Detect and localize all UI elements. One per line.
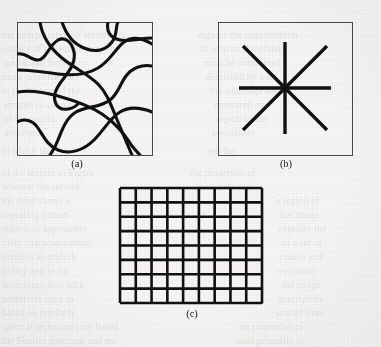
- bleed-text: and the: [206, 146, 235, 156]
- bleed-text: the third shows a: [2, 196, 70, 206]
- bleed-text: in which the: [2, 146, 51, 156]
- texture-curve: [17, 39, 78, 109]
- bleed-text: smooth or coarse: [4, 100, 72, 110]
- texture-figure: [0, 0, 381, 347]
- bleed-text: the image: [282, 280, 321, 290]
- bleed-text: grainy and so on: [2, 266, 68, 276]
- bleed-text: techniques deal with: [2, 280, 84, 290]
- bleed-text: of the region: [4, 114, 55, 124]
- bleed-text: measured over: [214, 100, 272, 110]
- starburst-spoke: [243, 46, 327, 130]
- bleed-text: of the texture in Figure: [2, 168, 94, 178]
- texture-curve: [108, 22, 153, 41]
- bleed-text: surface of the image may be: [2, 44, 115, 54]
- bleed-text: whereas the second: [2, 182, 79, 192]
- paper-grain-overlay: [0, 0, 381, 347]
- bleed-text: a region of: [276, 196, 319, 206]
- bleed-text: descriptor: [4, 128, 44, 138]
- bleed-text: based on regularly: [2, 308, 76, 318]
- bleed-text: more properties are: [2, 72, 80, 82]
- bleed-text: used primarily to: [236, 336, 304, 346]
- bleed-text: the interpretation of textures in: [2, 30, 126, 40]
- bleed-text: consider the: [278, 224, 327, 234]
- bleed-text: in the texture of the: [2, 86, 81, 96]
- bleed-text: textures as smooth: [2, 252, 76, 262]
- panel-caption-c: (c): [172, 308, 212, 319]
- bleed-text: region of the: [216, 114, 267, 124]
- bleed-text: regions the segmentation: [198, 30, 298, 40]
- starburst-spoke: [243, 46, 327, 130]
- bleed-text: the properties of: [190, 168, 256, 178]
- bleed-text: boundaries: [212, 128, 256, 138]
- bleed-text: on properties of: [240, 322, 303, 332]
- curve-group-a: [17, 22, 152, 155]
- bleed-text: must be considered: [204, 58, 281, 68]
- bleed-text: coarse and: [280, 252, 322, 262]
- bleed-text: yield characterizations: [2, 238, 92, 248]
- page-vignette: [0, 0, 381, 347]
- panel-frame-a: [18, 23, 153, 156]
- texture-curve: [50, 65, 152, 155]
- texture-curve: [40, 22, 132, 155]
- bleed-text: structural: [278, 266, 316, 276]
- bleed-text: is smooth and: [196, 182, 251, 192]
- panel-frame-c: [121, 189, 263, 304]
- texture-curve: [17, 108, 152, 152]
- bleed-text: repeating pattern: [2, 210, 70, 220]
- bleed-text: described by a set: [206, 72, 277, 82]
- panel-caption-b: (b): [266, 158, 306, 169]
- texture-panel-a: [17, 22, 153, 156]
- panel-caption-a: (a): [57, 158, 97, 169]
- texture-panel-b: [219, 23, 353, 156]
- bleed-text: spaced lines: [276, 308, 325, 318]
- bleed-text: primitives such as: [2, 294, 74, 304]
- bleed-text: the subimage and: [210, 86, 280, 96]
- texture-panel-c: [120, 188, 263, 304]
- figure-page: the interpretation of textures inregions…: [0, 0, 381, 347]
- bleed-text: the Fourier spectrum and are: [2, 336, 117, 346]
- bleed-text: of a set of: [282, 238, 322, 248]
- bleed-text: spectral techniques are based: [2, 322, 118, 332]
- bleed-text: of structural methods: [200, 44, 285, 54]
- bleed-text: spatial and frequency: [2, 58, 87, 68]
- texture-curve: [62, 22, 118, 50]
- panel-frame-b: [219, 23, 353, 156]
- bleed-text: description: [278, 294, 322, 304]
- bleed-text: statistical approaches: [2, 224, 87, 234]
- bleed-text: the image: [280, 210, 319, 220]
- texture-curve: [17, 91, 140, 155]
- texture-curve: [17, 38, 152, 74]
